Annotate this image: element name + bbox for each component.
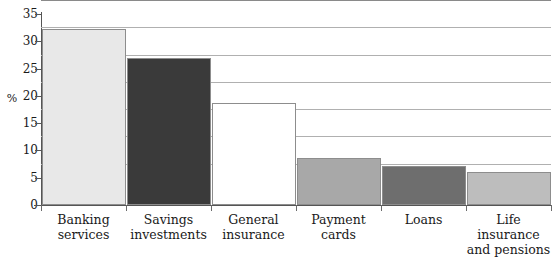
x-category-label-line: Banking (41, 212, 126, 227)
bar (297, 158, 381, 205)
x-category-label-line: investments (126, 227, 211, 242)
x-axis-category-labels: BankingservicesSavingsinvestmentsGeneral… (41, 212, 551, 251)
plot-area (41, 14, 551, 205)
x-category-label-line: insurance (211, 227, 296, 242)
x-category-label: Paymentcards (296, 212, 381, 242)
x-tick-mark (551, 205, 552, 211)
bar (42, 29, 126, 205)
x-tick-mark (296, 205, 297, 211)
x-category-label-line: Life insurance (466, 212, 551, 242)
x-tick-mark (466, 205, 467, 211)
x-tick-mark (381, 205, 382, 211)
x-category-label-line: services (41, 227, 126, 242)
y-axis-tick-labels: 05101520253035 (4, 0, 38, 251)
x-category-label: Bankingservices (41, 212, 126, 242)
x-category-label: Savingsinvestments (126, 212, 211, 242)
x-category-label: Generalinsurance (211, 212, 296, 242)
x-tick-mark (41, 205, 42, 211)
bar (212, 103, 296, 205)
x-category-label: Life insuranceand pensions (466, 212, 551, 257)
x-category-label-line: General (211, 212, 296, 227)
gridline (41, 0, 551, 1)
x-category-label-line: Payment (296, 212, 381, 227)
x-category-label-line: Loans (381, 212, 466, 227)
x-category-label-line: Savings (126, 212, 211, 227)
x-category-label: Loans (381, 212, 466, 227)
x-tick-mark (211, 205, 212, 211)
x-category-label-line: and pensions (466, 242, 551, 257)
bar (467, 172, 551, 205)
x-category-label-line: cards (296, 227, 381, 242)
x-tick-mark (126, 205, 127, 211)
bar (127, 58, 211, 205)
x-axis-line (34, 205, 551, 206)
bar (382, 166, 466, 205)
